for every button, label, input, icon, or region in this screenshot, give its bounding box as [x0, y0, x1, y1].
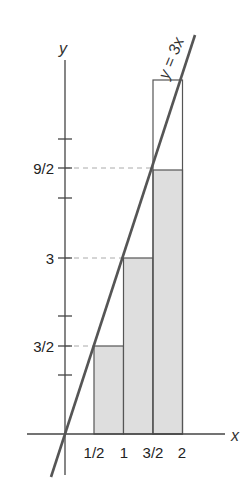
riemann-sum-diagram: y x y = 3x 3/2 3 9/2 1/2 1 3/2 2	[0, 0, 249, 496]
y-axis-label: y	[58, 40, 68, 57]
bar-1	[94, 346, 124, 434]
x-tick-label-1: 1	[120, 444, 128, 461]
x-tick-label-1-2: 1/2	[84, 444, 105, 461]
y-tick-label-3: 3	[46, 250, 54, 267]
y-tick-label-3-2: 3/2	[33, 338, 54, 355]
y-tick-label-9-2: 9/2	[33, 160, 54, 177]
x-axis-label: x	[230, 427, 240, 444]
x-tick-label-3-2: 3/2	[143, 444, 164, 461]
bar-2	[124, 258, 154, 434]
x-tick-label-2: 2	[178, 444, 186, 461]
bar-3	[153, 170, 183, 434]
